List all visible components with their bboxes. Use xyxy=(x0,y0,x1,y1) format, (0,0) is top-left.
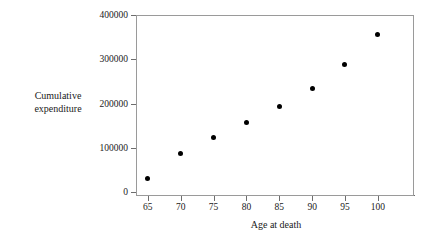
x-tick-mark xyxy=(246,196,247,201)
x-tick-mark xyxy=(279,196,280,201)
y-axis-title: Cumulative expenditure xyxy=(18,89,98,115)
y-tick-mark xyxy=(131,192,136,193)
data-point xyxy=(375,32,380,37)
y-axis-title-line-2: expenditure xyxy=(18,102,98,115)
x-tick-label: 100 xyxy=(358,202,398,213)
y-tick-label: 100000 xyxy=(100,143,129,153)
y-tick-mark xyxy=(131,15,136,16)
x-tick-mark xyxy=(378,196,379,201)
scatter-plot-figure: 0100000200000300000400000 65707580859095… xyxy=(0,0,442,246)
x-tick-mark xyxy=(214,196,215,201)
x-axis-title: Age at death xyxy=(196,219,356,231)
data-point xyxy=(244,120,249,125)
y-tick-label: 0 xyxy=(123,187,128,197)
y-tick-mark xyxy=(131,59,136,60)
x-tick-mark xyxy=(148,196,149,201)
y-tick-label: 200000 xyxy=(100,99,129,109)
y-tick-mark xyxy=(131,104,136,105)
data-point xyxy=(277,104,282,109)
data-point xyxy=(310,86,315,91)
y-tick-label: 400000 xyxy=(100,10,129,20)
y-tick-mark xyxy=(131,148,136,149)
x-tick-mark xyxy=(345,196,346,201)
x-tick-mark xyxy=(312,196,313,201)
y-axis-title-line-1: Cumulative xyxy=(18,89,98,102)
plot-area xyxy=(136,15,414,196)
y-tick-label: 300000 xyxy=(100,54,129,64)
x-tick-mark xyxy=(181,196,182,201)
